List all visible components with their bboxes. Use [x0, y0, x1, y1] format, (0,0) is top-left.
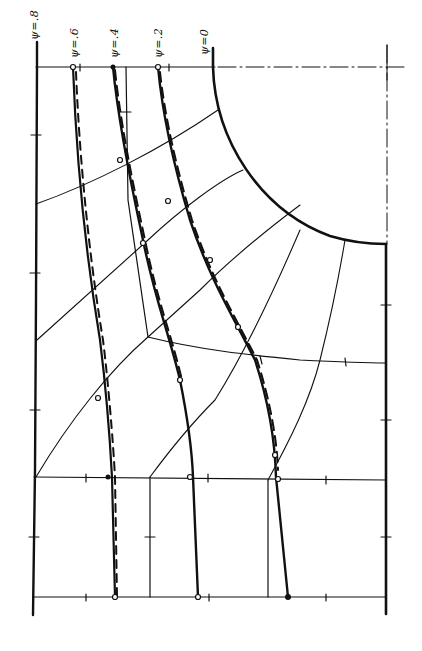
streamline-psi-06-dashed [76, 72, 117, 597]
boundary-psi-00-arc [213, 48, 386, 244]
streamline-psi-08 [33, 42, 37, 615]
middle-line [34, 477, 386, 480]
potential-line-b [36, 297, 148, 340]
streamline-psi-02-dashed [160, 72, 278, 470]
label-psi-04: ψ=.4 [108, 28, 121, 58]
potential-line-d [36, 205, 300, 477]
streamline-psi-04-dashed [115, 70, 182, 380]
flow-net-diagram [0, 0, 422, 651]
streamline-psi-04 [113, 67, 198, 597]
label-psi-00: ψ=0 [198, 29, 211, 55]
potential-line-center [148, 337, 386, 363]
label-psi-06: ψ=.6 [68, 28, 81, 58]
potential-line-c [37, 170, 243, 340]
label-psi-02: ψ=.2 [152, 28, 165, 58]
label-psi-08: ψ=.8 [28, 10, 41, 40]
